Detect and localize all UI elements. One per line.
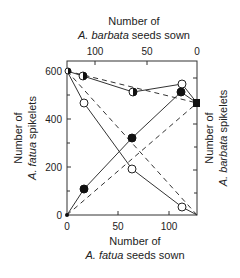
half-filled-circle-marker [129, 88, 137, 96]
x2-tick-label: 100 [87, 46, 104, 57]
bottom-axis-title-line1: Number of [109, 235, 161, 247]
svg-text:Number of: Number of [203, 111, 215, 163]
y-tick-label: 400 [45, 114, 62, 125]
half-filled-circle-marker [65, 68, 71, 74]
filled-circle-marker [128, 134, 136, 142]
fatua-observed-line [67, 92, 197, 215]
x2-tick-label: 0 [194, 46, 200, 57]
fatua-expected-line [67, 103, 197, 215]
bottom-axis-title-line2: A. fatua seeds sown [84, 249, 184, 261]
left-axis-title: Number of A. fatua spikelets [12, 96, 38, 181]
filled-circle-marker [177, 88, 185, 96]
open-circle-marker [80, 99, 88, 107]
open-circle-marker [178, 80, 186, 88]
filled-square-marker [193, 99, 200, 107]
chart: Number of A. barbata seeds sown 100 50 0… [0, 0, 240, 278]
half-filled-circle-marker [79, 72, 87, 80]
y-tick-label: 200 [45, 162, 62, 173]
top-axis-title-line1: Number of [108, 15, 160, 27]
open-circle-marker [128, 165, 136, 173]
open-circle-marker [178, 203, 186, 211]
y-tick-label: 600 [45, 66, 62, 77]
svg-text:A. barbata spikelets: A. barbata spikelets [217, 89, 229, 187]
fatua-markers [80, 88, 185, 193]
svg-text:A. fatua spikelets: A. fatua spikelets [26, 96, 38, 181]
x-tick-label: 0 [64, 221, 70, 232]
filled-circle-marker [80, 185, 88, 193]
y-tick-label: 0 [56, 210, 62, 221]
top-axis-title-line2: A. barbata seeds sown [77, 29, 190, 41]
barbata-markers [80, 80, 186, 211]
x2-tick-label: 50 [141, 46, 153, 57]
x-tick-label: 100 [161, 221, 178, 232]
origin-marker [65, 213, 69, 217]
x-tick-label: 50 [112, 221, 124, 232]
svg-text:Number of: Number of [12, 111, 24, 163]
right-axis-title: Number of A. barbata spikelets [203, 89, 229, 187]
